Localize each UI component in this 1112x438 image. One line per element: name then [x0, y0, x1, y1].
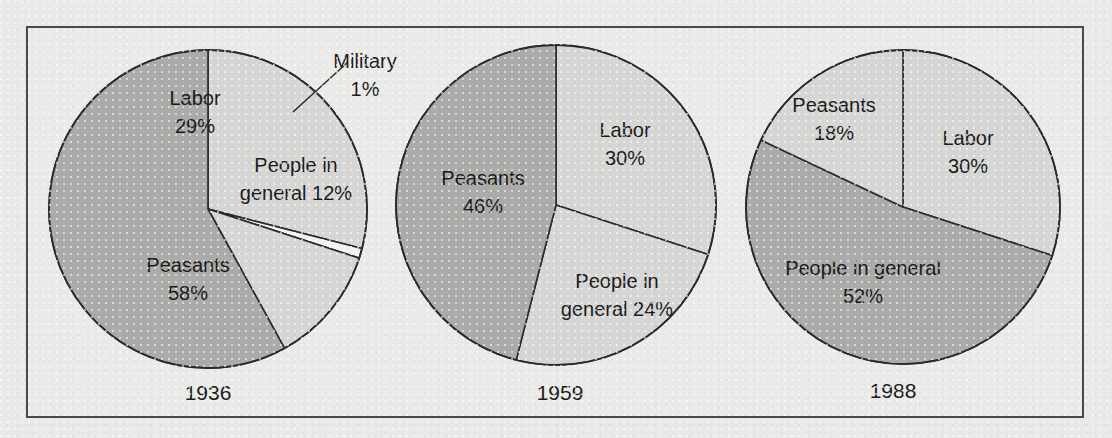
- slice-label-value: 58%: [168, 282, 208, 304]
- slice-label-value: general 24%: [561, 298, 674, 320]
- slice-label-name: Peasants: [146, 254, 229, 276]
- slice-label-name: People in general: [785, 257, 941, 279]
- slice-label-name: Labor: [599, 119, 650, 141]
- pie-charts-figure: Labor29%Military1%People ingeneral 12%Pe…: [0, 0, 1112, 438]
- slice-label-value: 52%: [843, 285, 883, 307]
- slice-label-value: 1%: [351, 78, 380, 100]
- slice-label-name: Peasants: [441, 167, 524, 189]
- slice-label-name: Labor: [942, 127, 993, 149]
- pie-chart-1936: Labor29%Military1%People ingeneral 12%Pe…: [49, 50, 397, 404]
- slice-label-name: People in: [254, 154, 337, 176]
- pie-chart-1959: Labor30%People ingeneral 24%Peasants46%1…: [396, 45, 716, 404]
- slice-label-value: 30%: [605, 147, 645, 169]
- slice-label-name: Military: [333, 50, 396, 72]
- slice-label-value: 46%: [463, 195, 503, 217]
- chart-year-label: 1936: [185, 381, 232, 404]
- pie-chart-1988: Labor30%People in general52%Peasants18%1…: [746, 50, 1060, 402]
- chart-year-label: 1988: [870, 379, 917, 402]
- slice-label-value: 29%: [175, 115, 215, 137]
- slice-label-value: general 12%: [240, 182, 353, 204]
- slice-label-value: 18%: [814, 122, 854, 144]
- slice-label-name: People in: [575, 270, 658, 292]
- chart-year-label: 1959: [537, 381, 584, 404]
- slice-label-name: Labor: [169, 87, 220, 109]
- slice-label-name: Peasants: [792, 94, 875, 116]
- slice-label-value: 30%: [948, 155, 988, 177]
